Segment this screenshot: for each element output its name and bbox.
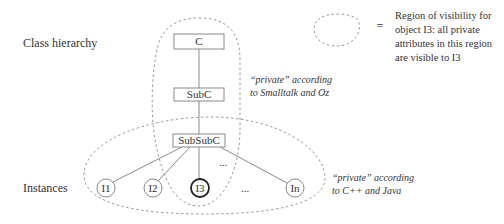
annotation-smalltalk-line1: “private” according	[250, 74, 332, 85]
edge-subsubc-i2	[158, 147, 190, 181]
legend-region-symbol	[314, 14, 359, 46]
instance-label: I2	[148, 182, 157, 194]
legend-line-2: object I3: all private	[395, 24, 480, 35]
ellipsis-upper: ...	[219, 156, 228, 168]
visibility-diagram: Class hierarchy Instances C SubC SubSubC…	[0, 0, 504, 224]
class-node-subc: SubC	[174, 88, 224, 101]
class-label: SubC	[187, 88, 211, 100]
legend-line-1: Region of visibility for	[395, 10, 492, 21]
annotation-smalltalk-line2: to Smalltalk and Oz	[250, 87, 329, 98]
legend-line-4: are visible to I3	[395, 52, 461, 63]
class-label: C	[195, 35, 202, 47]
ellipsis-instances: ...	[241, 182, 250, 194]
instance-label: I1	[101, 182, 110, 194]
instance-label: I3	[195, 182, 205, 194]
instance-node-in: In	[286, 179, 304, 197]
edge-subsubc-in	[220, 147, 287, 183]
instance-node-i3: I3	[191, 179, 209, 197]
annotation-cpp-line2: to C++ and Java	[332, 185, 401, 196]
legend-equals: =	[377, 19, 384, 33]
class-node-subsubc: SubSubC	[173, 134, 225, 147]
legend: = Region of visibility for object I3: al…	[314, 10, 493, 63]
class-label: SubSubC	[178, 134, 220, 146]
edge-subsubc-i1	[113, 147, 182, 182]
legend-line-3: attributes in this region	[395, 38, 493, 49]
annotation-cpp-line1: “private” according	[332, 172, 414, 183]
instance-label: In	[290, 182, 300, 194]
instance-node-i1: I1	[97, 179, 115, 197]
cpp-java-region	[84, 117, 325, 214]
class-node-c: C	[174, 34, 224, 49]
row-label-class-hierarchy: Class hierarchy	[23, 36, 97, 50]
row-label-instances: Instances	[23, 181, 68, 195]
instance-node-i2: I2	[144, 179, 162, 197]
